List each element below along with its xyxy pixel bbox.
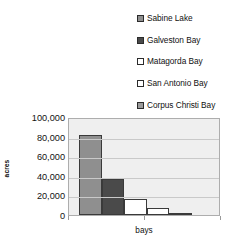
bar: [79, 135, 102, 215]
x-axis-tick-mark: [68, 216, 69, 220]
bar-slot: [169, 119, 192, 215]
gridline: [69, 178, 219, 179]
y-axis-tick-label: 100,000: [1, 113, 65, 123]
bar-chart: Sabine Lake Galveston Bay Matagorda Bay …: [0, 0, 241, 246]
gridline: [69, 158, 219, 159]
bar-slot: [102, 119, 125, 215]
gridline: [69, 139, 219, 140]
bar-slot: [147, 119, 170, 215]
y-axis-tick-label: 20,000: [1, 191, 65, 201]
legend-swatch-corpus-christi-bay: [137, 102, 144, 109]
bar: [169, 213, 192, 215]
legend-item-label: Galveston Bay: [147, 36, 200, 45]
legend-swatch-galveston-bay: [137, 37, 144, 44]
x-axis-tick-mark: [220, 216, 221, 220]
bar-slot: [79, 119, 102, 215]
y-axis-tick-label: 0: [1, 211, 65, 221]
bar-slot: [124, 119, 147, 215]
legend-item: Galveston Bay: [137, 30, 241, 52]
legend-item-label: San Antonio Bay: [147, 79, 208, 88]
y-axis-tick-label: 60,000: [1, 152, 65, 162]
legend-swatch-matagorda-bay: [137, 58, 144, 65]
bar: [147, 208, 170, 215]
y-axis-tick-label: 80,000: [1, 133, 65, 143]
legend-item-label: Matagorda Bay: [147, 57, 203, 66]
legend-item: Sabine Lake: [137, 8, 241, 30]
y-axis-tick-label: 40,000: [1, 172, 65, 182]
bar-series: [69, 119, 219, 215]
legend-item: Matagorda Bay: [137, 51, 241, 73]
chart-legend: Sabine Lake Galveston Bay Matagorda Bay …: [137, 8, 241, 116]
y-axis-title: acres: [3, 153, 10, 185]
x-axis-tick-mark: [144, 216, 145, 220]
x-axis-title: bays: [68, 226, 220, 235]
gridline: [69, 197, 219, 198]
y-axis-ticks: 100,00080,00060,00040,00020,0000: [0, 118, 65, 216]
plot-area: [68, 118, 220, 216]
legend-item: San Antonio Bay: [137, 73, 241, 95]
bar: [124, 199, 147, 215]
legend-item-label: Corpus Christi Bay: [147, 101, 215, 110]
legend-item-label: Sabine Lake: [147, 14, 193, 23]
legend-swatch-san-antonio-bay: [137, 80, 144, 87]
legend-swatch-sabine-lake: [137, 15, 144, 22]
legend-item: Corpus Christi Bay: [137, 94, 241, 116]
